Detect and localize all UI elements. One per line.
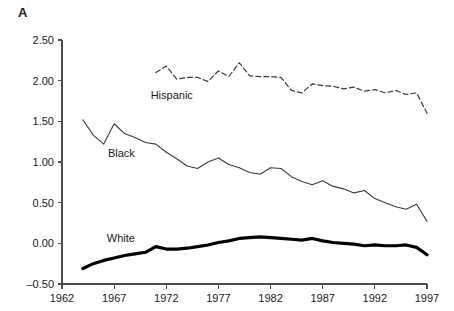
series-label-black: Black xyxy=(108,147,135,159)
x-tick-label: 1997 xyxy=(415,292,439,304)
y-tick-label: 2.50 xyxy=(33,34,54,46)
y-tick-label: 2.00 xyxy=(33,75,54,87)
x-tick-label: 1967 xyxy=(102,292,126,304)
x-tick-label: 1982 xyxy=(258,292,282,304)
x-tick-label: 1977 xyxy=(206,292,230,304)
y-tick-label: 1.00 xyxy=(33,156,54,168)
series-label-hispanic: Hispanic xyxy=(151,89,194,101)
y-tick-label: –0.50 xyxy=(26,278,54,290)
y-tick-label: 0.00 xyxy=(33,237,54,249)
x-tick-label: 1962 xyxy=(50,292,74,304)
y-tick-label: 1.50 xyxy=(33,115,54,127)
x-tick-label: 1987 xyxy=(310,292,334,304)
series-labels: HispanicBlackWhite xyxy=(107,89,193,244)
line-chart: –0.500.000.501.001.502.002.50 1962196719… xyxy=(0,0,454,311)
y-tick-label: 0.50 xyxy=(33,197,54,209)
series-line-hispanic xyxy=(156,63,427,113)
x-tick-label: 1972 xyxy=(154,292,178,304)
figure-panel-a: A –0.500.000.501.001.502.002.50 19621967… xyxy=(0,0,454,311)
series-line-black xyxy=(83,120,427,222)
x-axis: 19621967197219771982198719921997 xyxy=(50,284,439,304)
y-axis: –0.500.000.501.001.502.002.50 xyxy=(26,34,62,290)
x-tick-label: 1992 xyxy=(363,292,387,304)
series-label-white: White xyxy=(107,232,135,244)
